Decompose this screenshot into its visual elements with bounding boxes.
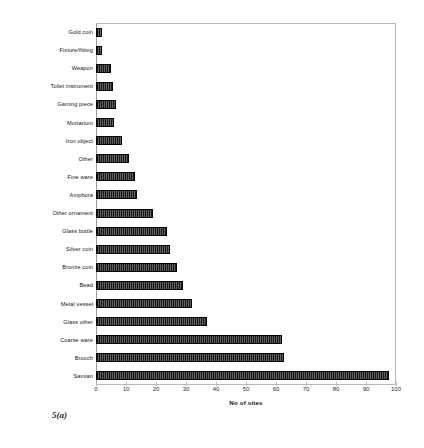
x-tick-label: 100 xyxy=(376,386,416,392)
bar-row xyxy=(96,258,396,276)
bar xyxy=(96,136,122,145)
bar xyxy=(96,190,137,199)
bar xyxy=(96,28,102,37)
bar-row xyxy=(96,295,396,313)
bar xyxy=(96,299,192,308)
category-label: Glass bottle xyxy=(0,222,93,240)
bar-row xyxy=(96,41,396,59)
bar xyxy=(96,64,111,73)
category-label: Other xyxy=(0,150,93,168)
bar-row xyxy=(96,114,396,132)
bar-row xyxy=(96,276,396,294)
bar xyxy=(96,100,116,109)
bar-row xyxy=(96,349,396,367)
category-label: Other ornament xyxy=(0,204,93,222)
category-label: Fixture/fitting xyxy=(0,41,93,59)
category-label: Mortarium xyxy=(0,114,93,132)
bar-row xyxy=(96,150,396,168)
category-label: Bronze coin xyxy=(0,258,93,276)
bar xyxy=(96,82,113,91)
category-axis-labels: Gold coinFixture/fittingWeaponToilet ins… xyxy=(0,23,93,385)
category-label: Toilet instrument xyxy=(0,77,93,95)
bar-row xyxy=(96,331,396,349)
bar xyxy=(96,245,170,254)
bar xyxy=(96,371,389,380)
category-label: Fine ware xyxy=(0,168,93,186)
category-label: Amphora xyxy=(0,186,93,204)
bar xyxy=(96,154,129,163)
bar-row xyxy=(96,59,396,77)
bar xyxy=(96,317,207,326)
category-label: Silver coin xyxy=(0,240,93,258)
category-label: Iron object xyxy=(0,132,93,150)
bar-row xyxy=(96,240,396,258)
bar-row xyxy=(96,95,396,113)
bar xyxy=(96,118,114,127)
bar-row xyxy=(96,168,396,186)
category-label: Gaming piece xyxy=(0,95,93,113)
category-label: Samian xyxy=(0,367,93,385)
bar xyxy=(96,263,177,272)
category-label: Glass other xyxy=(0,313,93,331)
bar-row xyxy=(96,204,396,222)
bar xyxy=(96,209,153,218)
bar-row xyxy=(96,132,396,150)
bars-container xyxy=(96,23,396,385)
bar-row xyxy=(96,23,396,41)
category-label: Metal vessel xyxy=(0,295,93,313)
bar xyxy=(96,46,102,55)
bar-row xyxy=(96,186,396,204)
bar xyxy=(96,227,167,236)
category-label: Weapon xyxy=(0,59,93,77)
category-label: Gold coin xyxy=(0,23,93,41)
category-label: Brooch xyxy=(0,349,93,367)
bar-chart-figure: Gold coinFixture/fittingWeaponToilet ins… xyxy=(0,0,424,448)
bar xyxy=(96,281,183,290)
bar xyxy=(96,172,135,181)
figure-caption: 5(a) xyxy=(52,410,67,420)
category-label: Coarse ware xyxy=(0,331,93,349)
bar xyxy=(96,335,282,344)
bar-row xyxy=(96,313,396,331)
bar-row xyxy=(96,222,396,240)
category-label: Bead xyxy=(0,276,93,294)
bar xyxy=(96,353,284,362)
bar-row xyxy=(96,77,396,95)
x-axis-title: No of sites xyxy=(96,399,396,406)
